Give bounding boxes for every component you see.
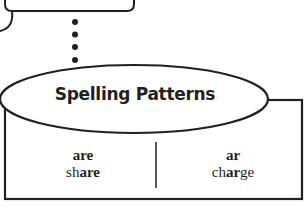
diagram-title: Spelling Patterns bbox=[0, 84, 270, 104]
top-box bbox=[5, 0, 134, 11]
word-prefix: sh bbox=[66, 164, 79, 180]
word-pattern: ar bbox=[226, 164, 240, 180]
example-word: charge bbox=[158, 164, 304, 181]
pattern-label: ar bbox=[158, 147, 304, 164]
word-suffix: ge bbox=[240, 164, 254, 180]
spelling-patterns-diagram: Spelling Patterns are share ar charge bbox=[0, 0, 304, 208]
pattern-column-are: are share bbox=[8, 147, 158, 181]
word-pattern: are bbox=[79, 164, 100, 180]
left-curve bbox=[0, 11, 12, 31]
pattern-column-ar: ar charge bbox=[158, 147, 304, 181]
dotted-connector bbox=[72, 19, 78, 63]
example-word: share bbox=[8, 164, 158, 181]
pattern-label: are bbox=[8, 147, 158, 164]
word-prefix: ch bbox=[212, 164, 226, 180]
